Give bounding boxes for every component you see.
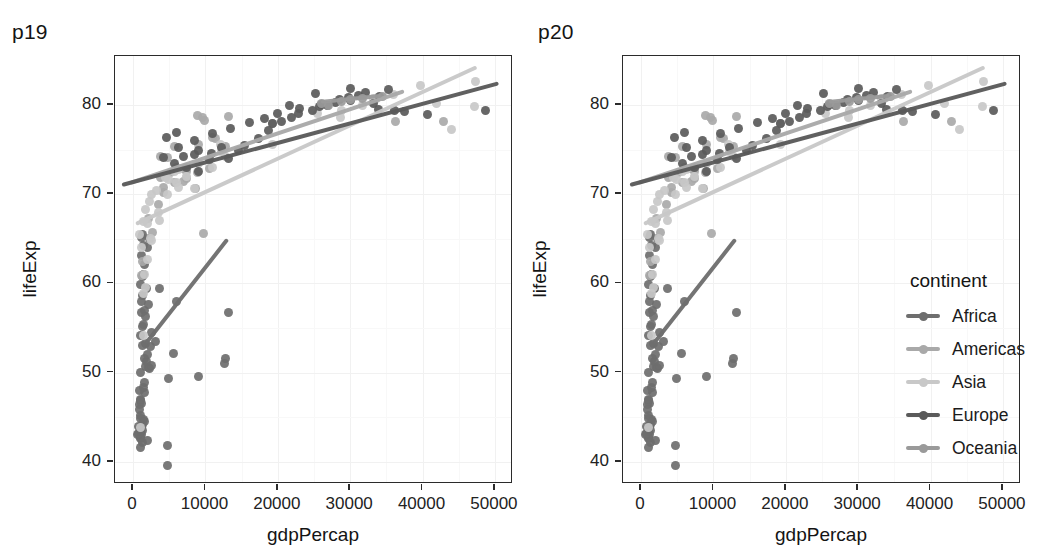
x-axis-tick-label: 50000 bbox=[978, 494, 1025, 514]
data-point bbox=[143, 350, 152, 359]
x-axis-tick bbox=[639, 484, 641, 490]
data-point bbox=[140, 378, 149, 387]
legend-title: continent bbox=[910, 270, 1025, 292]
data-point bbox=[151, 337, 160, 346]
data-point bbox=[471, 77, 480, 86]
regression-line bbox=[135, 66, 478, 227]
data-point bbox=[470, 102, 479, 111]
legend-key-point bbox=[919, 411, 928, 420]
data-point bbox=[136, 423, 145, 432]
data-point bbox=[245, 118, 254, 127]
data-point bbox=[979, 77, 988, 86]
data-point bbox=[194, 372, 203, 381]
y-axis-tick bbox=[615, 192, 621, 194]
data-point bbox=[682, 143, 691, 152]
data-point bbox=[194, 146, 203, 155]
x-axis-tick-label: 50000 bbox=[470, 494, 517, 514]
data-point bbox=[179, 152, 188, 161]
gridline-horizontal-minor bbox=[115, 239, 511, 240]
y-axis-tick-label: 50 bbox=[66, 362, 101, 382]
x-axis-tick-label: 10000 bbox=[181, 494, 228, 514]
data-point bbox=[481, 106, 490, 115]
data-point bbox=[978, 102, 987, 111]
y-axis-tick-label: 40 bbox=[66, 451, 101, 471]
y-axis-tick bbox=[615, 103, 621, 105]
data-point bbox=[224, 308, 233, 317]
y-axis-tick bbox=[107, 371, 113, 373]
data-point bbox=[136, 395, 145, 404]
data-point bbox=[199, 229, 208, 238]
data-point bbox=[159, 153, 168, 162]
gridline-horizontal bbox=[115, 283, 511, 284]
data-point bbox=[732, 308, 741, 317]
data-point bbox=[707, 229, 716, 238]
data-point bbox=[141, 205, 150, 214]
data-point bbox=[172, 128, 181, 137]
y-axis-tick-label: 80 bbox=[66, 94, 101, 114]
legend-item-oceania[interactable]: Oceania bbox=[906, 435, 1025, 461]
legend-key-icon bbox=[906, 339, 940, 359]
regression-line bbox=[643, 66, 986, 227]
x-axis-tick bbox=[712, 484, 714, 490]
data-point bbox=[698, 136, 707, 145]
data-point bbox=[221, 354, 230, 363]
data-point bbox=[143, 436, 152, 445]
data-point bbox=[277, 117, 286, 126]
data-point bbox=[702, 146, 711, 155]
data-point bbox=[667, 153, 676, 162]
data-point bbox=[785, 117, 794, 126]
data-point bbox=[644, 443, 653, 452]
data-point bbox=[169, 349, 178, 358]
data-point bbox=[139, 289, 148, 298]
gridline-horizontal bbox=[115, 373, 511, 374]
legend-item-africa[interactable]: Africa bbox=[906, 303, 1025, 329]
legend-item-europe[interactable]: Europe bbox=[906, 402, 1025, 428]
x-axis-tick-label: 0 bbox=[635, 494, 644, 514]
data-point bbox=[164, 374, 173, 383]
data-point bbox=[643, 405, 652, 414]
legend-item-label: Africa bbox=[952, 306, 997, 327]
y-axis-title-p19: lifeExp bbox=[19, 240, 41, 297]
data-point bbox=[682, 183, 691, 192]
x-axis-tick bbox=[929, 484, 931, 490]
data-point bbox=[651, 350, 660, 359]
data-point bbox=[643, 386, 652, 395]
data-point bbox=[260, 114, 269, 123]
data-point bbox=[139, 320, 148, 329]
data-point bbox=[162, 133, 171, 142]
data-point bbox=[311, 89, 320, 98]
data-point bbox=[680, 128, 689, 137]
x-axis-title-p20: gdpPercap bbox=[775, 524, 867, 546]
data-point bbox=[648, 378, 657, 387]
data-point bbox=[947, 117, 956, 126]
data-point bbox=[989, 106, 998, 115]
gridline-horizontal bbox=[115, 462, 511, 463]
data-point bbox=[652, 300, 661, 309]
legend-item-americas[interactable]: Americas bbox=[906, 336, 1025, 362]
data-point bbox=[651, 436, 660, 445]
y-axis-tick bbox=[107, 460, 113, 462]
y-axis-tick-label: 70 bbox=[66, 183, 101, 203]
x-axis-tick-label: 10000 bbox=[689, 494, 736, 514]
data-point bbox=[671, 190, 680, 199]
gridline-horizontal-minor bbox=[115, 417, 511, 418]
data-point bbox=[190, 136, 199, 145]
data-point bbox=[423, 110, 432, 119]
gridline-horizontal-minor bbox=[115, 328, 511, 329]
data-point bbox=[644, 423, 653, 432]
y-axis-tick-label: 60 bbox=[574, 272, 609, 292]
data-point bbox=[174, 143, 183, 152]
x-axis-tick bbox=[276, 484, 278, 490]
data-point bbox=[208, 163, 217, 172]
legend-item-asia[interactable]: Asia bbox=[906, 369, 1025, 395]
data-point bbox=[135, 386, 144, 395]
data-point bbox=[163, 190, 172, 199]
data-point bbox=[644, 395, 653, 404]
data-point bbox=[663, 284, 672, 293]
data-point bbox=[702, 372, 711, 381]
regression-line bbox=[142, 238, 230, 348]
gridline-horizontal bbox=[623, 194, 1019, 195]
plot-area-p19 bbox=[114, 55, 512, 483]
legend-key-icon bbox=[906, 405, 940, 425]
data-point bbox=[163, 441, 172, 450]
